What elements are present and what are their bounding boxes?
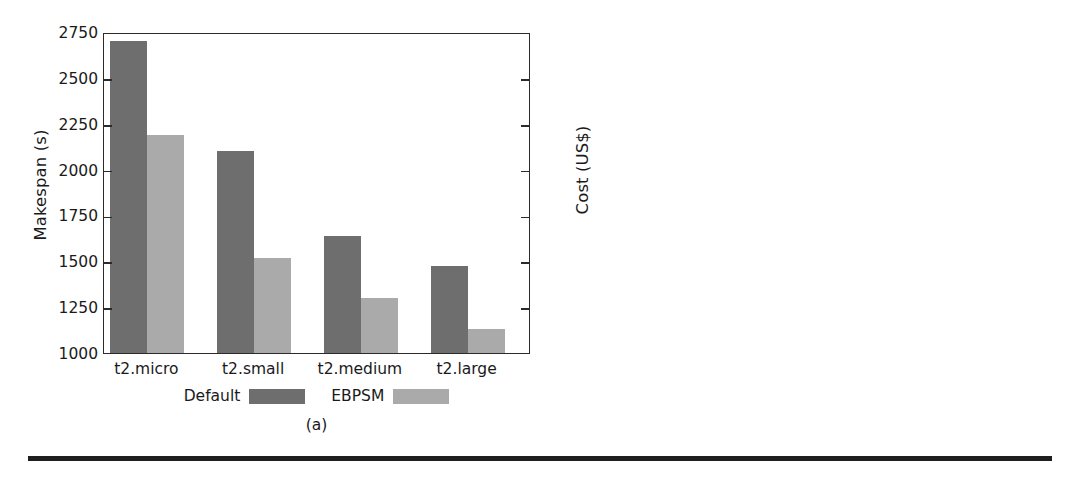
chart-panel-b: Cost (US$) 00.110.220.330.440.55 t2.micr… <box>540 0 1077 480</box>
y-tick-mark-right <box>521 79 529 81</box>
y-tick-mark-right <box>521 262 529 264</box>
bar-default-t2-micro <box>110 41 147 353</box>
figure-bottom-rule <box>28 456 1052 461</box>
legend-entry-default: Default <box>184 387 306 405</box>
x-tick-label: t2.medium <box>318 360 403 378</box>
y-tick-label: 2000 <box>59 162 98 180</box>
y-tick-label: 2500 <box>59 70 98 88</box>
bar-default-t2-small <box>217 151 254 353</box>
y-tick-label: 1750 <box>59 207 98 225</box>
y-tick-label: 2250 <box>59 116 98 134</box>
x-axis-labels-a: t2.microt2.smallt2.mediumt2.large <box>103 360 530 382</box>
legend-swatch-ebpsm <box>393 389 449 404</box>
y-tick-mark-right <box>521 125 529 127</box>
figure-container: Makespan (s) 100012501500175020002250250… <box>0 0 1077 480</box>
y-tick-mark-left <box>104 79 112 81</box>
legend-label: EBPSM <box>331 387 384 405</box>
bar-ebpsm-t2-medium <box>361 298 398 353</box>
bar-default-t2-medium <box>324 236 361 353</box>
subcaption-a: (a) <box>103 416 530 434</box>
y-tick-mark-left <box>104 171 112 173</box>
y-tick-mark-left <box>104 308 112 310</box>
legend-a: DefaultEBPSM <box>103 386 530 406</box>
y-tick-mark-right <box>521 171 529 173</box>
y-tick-label: 1250 <box>59 299 98 317</box>
y-tick-label: 1500 <box>59 253 98 271</box>
x-tick-label: t2.large <box>437 360 497 378</box>
y-tick-mark-left <box>104 262 112 264</box>
bar-ebpsm-t2-micro <box>147 135 184 353</box>
bars-group-a <box>104 34 529 353</box>
x-tick-label: t2.small <box>222 360 284 378</box>
y-axis-label-b: Cost (US$) <box>568 10 598 330</box>
y-tick-mark-left <box>104 217 112 219</box>
y-axis-ticks-a: 10001250150017502000225025002750 <box>36 33 98 354</box>
legend-label: Default <box>184 387 241 405</box>
bar-ebpsm-t2-large <box>468 329 505 353</box>
y-tick-mark-right <box>521 308 529 310</box>
plot-area-a <box>103 33 530 354</box>
bar-ebpsm-t2-small <box>254 258 291 353</box>
y-tick-mark-right <box>521 217 529 219</box>
legend-entry-ebpsm: EBPSM <box>331 387 449 405</box>
x-tick-label: t2.micro <box>114 360 178 378</box>
chart-panel-a: Makespan (s) 100012501500175020002250250… <box>0 0 540 480</box>
y-tick-label: 1000 <box>59 345 98 363</box>
bar-default-t2-large <box>431 266 468 353</box>
y-tick-label: 2750 <box>59 24 98 42</box>
legend-swatch-default <box>249 389 305 404</box>
y-tick-mark-left <box>104 125 112 127</box>
